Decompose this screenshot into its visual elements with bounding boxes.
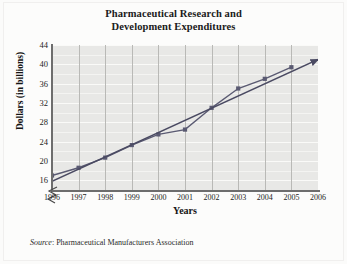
x-axis-tick-label: 2006 (301, 193, 335, 202)
source-label: Source (30, 238, 52, 247)
data-series-layer (52, 45, 318, 190)
y-axis-label: Dollars (in billions) (15, 31, 25, 151)
chart-title: Pharmaceutical Research and Development … (0, 8, 347, 33)
source-value: : Pharmaceutical Manufacturers Associati… (52, 238, 194, 247)
x-axis-line (52, 190, 320, 192)
source-note: Source: Pharmaceutical Manufacturers Ass… (30, 238, 193, 247)
data-point-marker (263, 77, 267, 81)
plot-area (52, 45, 318, 190)
chart-page: Pharmaceutical Research and Development … (0, 0, 347, 264)
chart-title-line-2: Development Expenditures (0, 21, 347, 34)
data-point-marker (236, 86, 240, 90)
y-axis-tick-label: 16 (18, 176, 48, 185)
data-point-marker (183, 127, 187, 131)
trend-line (52, 60, 318, 182)
data-line (52, 67, 291, 175)
y-axis-line (51, 44, 53, 192)
chart-title-line-1: Pharmaceutical Research and (105, 8, 242, 19)
data-point-marker (289, 65, 293, 69)
x-axis-label: Years (52, 205, 318, 216)
y-axis-tick-label: 20 (18, 157, 48, 166)
